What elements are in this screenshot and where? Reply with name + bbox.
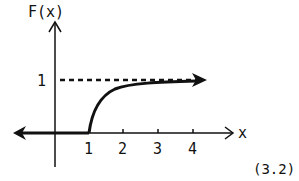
cdf-diagram: F(x) x 1 1 2 3 4 (3.2) — [0, 0, 299, 181]
y-tick-label-1: 1 — [37, 72, 46, 90]
x-tick-label-1: 1 — [84, 140, 93, 158]
equation-number: (3.2) — [253, 161, 295, 177]
y-axis-label: F(x) — [28, 3, 64, 21]
x-tick-label-4: 4 — [188, 140, 197, 158]
x-tick-label-3: 3 — [153, 140, 162, 158]
x-axis-label: x — [238, 124, 247, 142]
function-curve — [89, 81, 196, 133]
x-tick-label-2: 2 — [118, 140, 127, 158]
